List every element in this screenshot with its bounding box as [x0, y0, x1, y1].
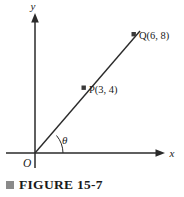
ray-through-points	[35, 31, 140, 153]
x-axis-arrow-icon	[156, 149, 166, 157]
point-marker-p	[82, 86, 86, 90]
y-axis-label: y	[30, 0, 36, 12]
point-label-q: Q(6, 8)	[139, 30, 170, 42]
point-marker-q	[132, 32, 136, 36]
point-label-p: P(3, 4)	[89, 84, 118, 96]
square-bullet-icon	[6, 181, 14, 189]
angle-theta-label: θ	[62, 134, 68, 146]
y-axis-arrow-icon	[31, 13, 39, 23]
figure-caption: FIGURE 15-7	[6, 176, 184, 194]
origin-label: O	[23, 157, 32, 169]
figure-caption-text: FIGURE 15-7	[19, 177, 103, 193]
coordinate-plot: y x O θ P(3, 4) Q(6, 8)	[0, 0, 184, 172]
figure-15-7: y x O θ P(3, 4) Q(6, 8) FIGURE 15-7	[0, 0, 184, 197]
x-axis-label: x	[169, 147, 175, 159]
